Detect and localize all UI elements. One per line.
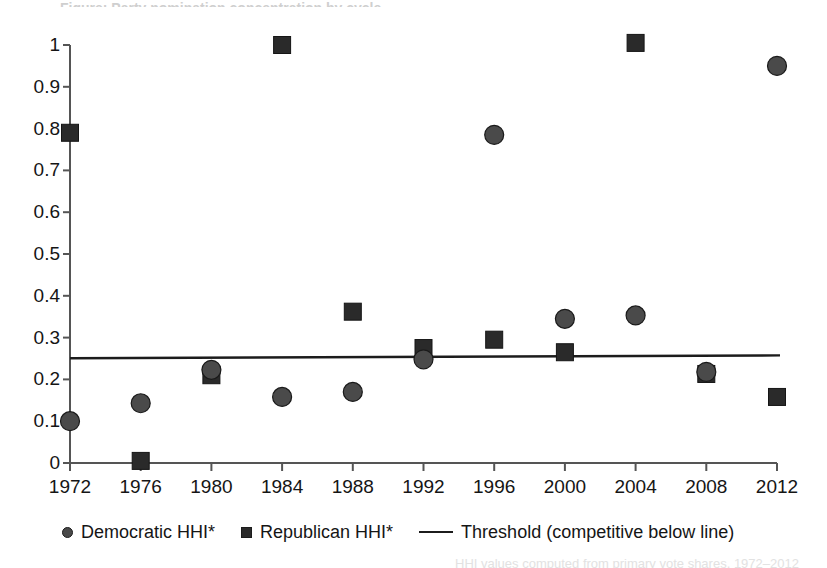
square-marker-icon	[241, 527, 252, 538]
data-point-republican	[62, 124, 79, 141]
data-point-republican	[769, 388, 786, 405]
x-tick-label: 2004	[596, 477, 676, 496]
data-point-democratic	[131, 394, 150, 413]
footnote-cutoff: HHI values computed from primary vote sh…	[455, 556, 827, 568]
y-tick-label: 0.9	[8, 77, 60, 96]
y-tick-label: 0.2	[8, 369, 60, 388]
x-tick-label: 2000	[525, 477, 605, 496]
axes-layer	[63, 45, 777, 471]
legend-label-threshold: Threshold (competitive below line)	[461, 523, 734, 541]
legend-label-democratic: Democratic HHI*	[81, 523, 215, 541]
legend-item-threshold[interactable]: Threshold (competitive below line)	[419, 523, 734, 541]
data-point-republican	[344, 303, 361, 320]
x-tick-label: 1976	[101, 477, 181, 496]
y-tick-label: 0.5	[8, 244, 60, 263]
data-point-republican	[486, 331, 503, 348]
data-points-layer	[61, 34, 787, 469]
y-tick-label: 0.7	[8, 160, 60, 179]
data-point-republican	[274, 37, 291, 54]
y-tick-label: 0.8	[8, 119, 60, 138]
data-point-democratic	[485, 125, 504, 144]
data-point-democratic	[626, 306, 645, 325]
data-point-republican	[556, 344, 573, 361]
data-point-republican	[627, 34, 644, 51]
data-point-republican	[132, 452, 149, 469]
legend-item-democratic[interactable]: Democratic HHI*	[62, 523, 215, 541]
data-point-democratic	[697, 362, 716, 381]
x-tick-label: 1992	[384, 477, 464, 496]
x-tick-label: 1996	[454, 477, 534, 496]
data-point-democratic	[555, 309, 574, 328]
data-point-democratic	[61, 412, 80, 431]
data-point-democratic	[202, 360, 221, 379]
y-tick-label: 1	[8, 35, 60, 54]
legend-label-republican: Republican HHI*	[260, 523, 393, 541]
x-tick-label: 2008	[666, 477, 746, 496]
y-tick-label: 0	[8, 453, 60, 472]
x-tick-label: 1984	[242, 477, 322, 496]
plot-area: 10.90.80.70.60.50.40.30.20.10 1972197619…	[0, 0, 827, 568]
data-point-democratic	[768, 56, 787, 75]
chart-legend: Democratic HHI* Republican HHI* Threshol…	[62, 519, 734, 545]
x-tick-label: 2012	[737, 477, 817, 496]
x-tick-label: 1980	[171, 477, 251, 496]
y-tick-label: 0.4	[8, 286, 60, 305]
x-tick-label: 1972	[30, 477, 110, 496]
data-point-democratic	[273, 387, 292, 406]
line-marker-icon	[419, 531, 453, 533]
data-point-democratic	[414, 350, 433, 369]
y-tick-label: 0.6	[8, 202, 60, 221]
legend-item-republican[interactable]: Republican HHI*	[241, 523, 393, 541]
circle-marker-icon	[62, 527, 73, 538]
data-point-democratic	[343, 382, 362, 401]
x-tick-label: 1988	[313, 477, 393, 496]
y-tick-label: 0.3	[8, 328, 60, 347]
y-tick-label: 0.1	[8, 411, 60, 430]
chart-root: Figure: Party nomination concentration b…	[0, 0, 827, 568]
